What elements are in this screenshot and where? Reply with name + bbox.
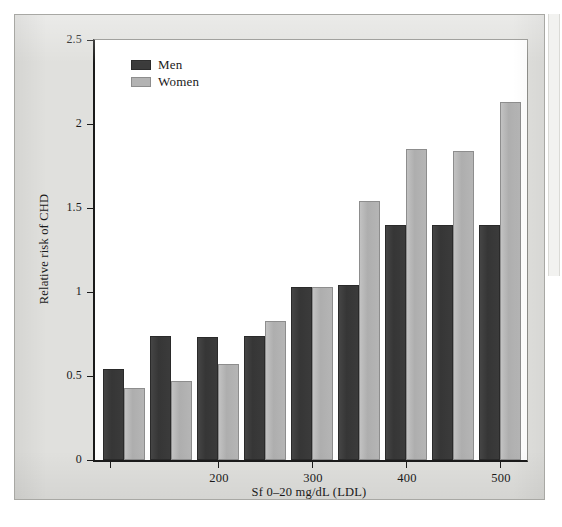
bar-women — [406, 149, 427, 460]
x-tick-label-200: 200 — [209, 471, 228, 486]
legend-item-men: Men — [131, 56, 199, 73]
bar-group — [103, 40, 145, 460]
bar-group — [385, 40, 427, 460]
bar-group — [244, 40, 286, 460]
y-tick-2: 2 — [87, 124, 95, 125]
bar-women — [218, 364, 239, 460]
y-tick-label-1: 1 — [76, 284, 82, 299]
y-axis-title: Relative risk of CHD — [37, 39, 51, 459]
x-axis-title: Sf 0–20 mg/dL (LDL) — [93, 485, 525, 500]
bar-women — [500, 102, 521, 460]
y-tick-label-2.5: 2.5 — [66, 32, 82, 47]
bar-men — [103, 369, 124, 460]
y-tick-2.5: 2.5 — [87, 40, 95, 41]
bar-women — [171, 381, 192, 460]
bar-women — [265, 321, 286, 460]
bar-men — [150, 336, 171, 460]
y-tick-0: 0 — [87, 460, 95, 461]
bar-chart: Relative risk of CHD 00.511.522.5 200300… — [15, 15, 546, 501]
bar-group — [479, 40, 521, 460]
bar-women — [312, 287, 333, 460]
x-tick-label-500: 500 — [491, 471, 510, 486]
y-tick-1: 1 — [87, 292, 95, 293]
bar-men — [432, 225, 453, 460]
legend-label-women: Women — [158, 74, 199, 90]
x-tick-label-300: 300 — [303, 471, 322, 486]
figure-panel: Relative risk of CHD 00.511.522.5 200300… — [14, 14, 545, 500]
page-edge-strip — [548, 14, 560, 276]
y-tick-label-2: 2 — [76, 116, 82, 131]
x-tick-label-400: 400 — [397, 471, 416, 486]
bar-group — [197, 40, 239, 460]
y-tick-1.5: 1.5 — [87, 208, 95, 209]
bar-women — [359, 201, 380, 460]
legend-item-women: Women — [131, 73, 199, 90]
bar-men — [385, 225, 406, 460]
x-tick-400: 400 — [406, 460, 407, 468]
bar-women — [124, 388, 145, 460]
bar-women — [453, 151, 474, 460]
bar-men — [479, 225, 500, 460]
bar-group — [291, 40, 333, 460]
bar-group — [338, 40, 380, 460]
women-swatch-icon — [131, 77, 151, 87]
x-tick-300: 300 — [312, 460, 313, 468]
y-tick-label-0: 0 — [76, 452, 82, 467]
bar-men — [338, 285, 359, 460]
legend-label-men: Men — [158, 57, 182, 73]
y-tick-0.5: 0.5 — [87, 376, 95, 377]
y-tick-label-0.5: 0.5 — [66, 368, 82, 383]
bar-men — [291, 287, 312, 460]
x-tick-500: 500 — [500, 460, 501, 468]
x-tick-200: 200 — [218, 460, 219, 468]
plot-area: 00.511.522.5 200300400500 Men Women — [93, 39, 528, 462]
bar-group — [432, 40, 474, 460]
y-tick-label-1.5: 1.5 — [66, 200, 82, 215]
bar-series-container — [95, 40, 527, 460]
men-swatch-icon — [131, 60, 151, 70]
chart-legend: Men Women — [131, 56, 199, 90]
bar-group — [150, 40, 192, 460]
bar-men — [244, 336, 265, 460]
x-tick-origin — [110, 460, 111, 468]
bar-men — [197, 337, 218, 460]
